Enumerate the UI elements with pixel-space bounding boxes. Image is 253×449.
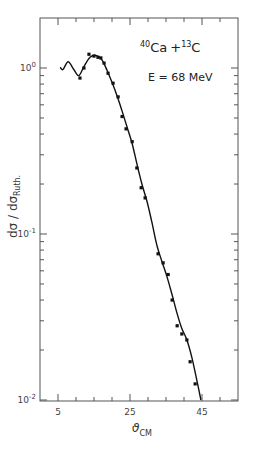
reaction-annotation: 40Ca+13C	[140, 40, 200, 55]
theory-curve	[60, 55, 201, 400]
data-point	[194, 382, 197, 385]
data-point	[87, 53, 90, 56]
y-axis-label: dσ / dσRuth.	[6, 175, 22, 238]
data-point	[82, 66, 85, 69]
data-point	[111, 82, 114, 85]
data-point	[140, 186, 143, 189]
data-point	[92, 54, 95, 57]
data-point	[96, 56, 99, 59]
data-point	[185, 338, 188, 341]
data-point	[180, 332, 183, 335]
chart-svg: 52545 10010-110-2 40Ca+13C E = 68 MeV ϑC…	[0, 0, 253, 449]
y-tick-label: 10-1	[18, 227, 36, 239]
data-point	[167, 273, 170, 276]
data-point	[162, 261, 165, 264]
data-point	[120, 115, 123, 118]
data-point	[131, 140, 134, 143]
data-point	[102, 62, 105, 65]
x-tick-label: 25	[124, 407, 135, 417]
y-tick-label: 100	[20, 61, 36, 73]
data-point	[156, 252, 159, 255]
data-point	[189, 360, 192, 363]
data-point	[106, 72, 109, 75]
x-tick-label: 45	[196, 407, 207, 417]
y-axis-tick-labels: 10010-110-2	[18, 61, 36, 405]
y-axis-ticks	[40, 68, 238, 400]
data-point	[99, 56, 102, 59]
data-point	[78, 76, 81, 79]
x-tick-label: 5	[55, 407, 61, 417]
data-point	[135, 166, 138, 169]
data-point	[124, 127, 127, 130]
data-point	[176, 324, 179, 327]
data-point	[144, 196, 147, 199]
data-point	[171, 298, 174, 301]
data-point	[117, 95, 120, 98]
x-axis-tick-labels: 52545	[55, 407, 208, 417]
data-points	[78, 53, 196, 386]
energy-annotation: E = 68 MeV	[148, 71, 213, 84]
y-tick-label: 10-2	[18, 393, 36, 405]
x-axis-label: ϑCM	[132, 421, 152, 438]
